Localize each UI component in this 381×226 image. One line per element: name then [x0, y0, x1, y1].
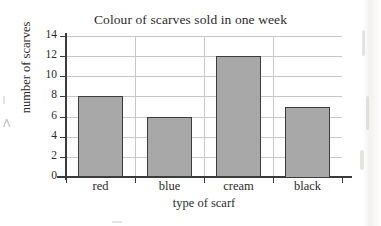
- y-axis-tick-label: 8: [35, 88, 57, 100]
- chart-title: Colour of scarves sold in one week: [0, 12, 381, 28]
- scan-fleck: [366, 96, 369, 130]
- bar-cream: [216, 56, 261, 177]
- x-axis-label-black: black: [273, 179, 342, 194]
- x-axis-label-cream: cream: [204, 179, 273, 194]
- y-axis-tick-label: 10: [35, 68, 57, 80]
- y-axis-tick: [60, 56, 67, 57]
- y-axis-tick: [60, 117, 67, 118]
- y-axis-tick: [60, 96, 67, 97]
- gridline-vertical: [204, 36, 205, 177]
- y-axis-tick: [60, 137, 67, 138]
- y-axis-tick-label: 6: [35, 109, 57, 121]
- y-axis-tick: [60, 76, 67, 77]
- y-axis-tick: [60, 36, 67, 37]
- scan-fleck: [3, 96, 5, 104]
- scan-fleck: [362, 30, 365, 56]
- scan-fleck: [360, 150, 364, 170]
- bar-black: [285, 107, 330, 178]
- y-axis-title: number of scarves: [19, 0, 34, 143]
- y-axis-tick-label: 4: [35, 129, 57, 141]
- y-axis-tick-label: 0: [35, 169, 57, 181]
- bar-red: [78, 96, 123, 177]
- y-axis-tick-label: 2: [35, 149, 57, 161]
- y-axis-tick-label: 12: [35, 48, 57, 60]
- y-axis-tick-label: 14: [35, 28, 57, 40]
- scan-fleck: [112, 221, 122, 223]
- scan-mark-left: Λ: [3, 118, 11, 128]
- bar-chart: Colour of scarves sold in one week numbe…: [0, 0, 381, 226]
- x-axis-tick: [342, 177, 343, 183]
- x-axis-label-blue: blue: [135, 179, 204, 194]
- bar-blue: [147, 117, 192, 177]
- x-axis-title: type of scarf: [66, 196, 342, 211]
- y-axis-tick: [60, 157, 67, 158]
- y-axis-line: [65, 33, 67, 180]
- gridline-vertical: [273, 36, 274, 177]
- x-axis-label-red: red: [66, 179, 135, 194]
- gridline-vertical: [135, 36, 136, 177]
